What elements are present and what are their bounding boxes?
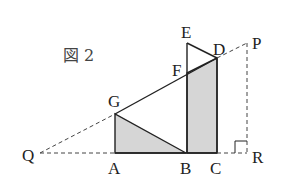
label-a: A (108, 159, 121, 178)
label-p: P (252, 34, 261, 53)
label-c: C (210, 159, 221, 178)
geometry-figure: 図 2 Q A B C R G F D E P (0, 0, 281, 186)
label-r: R (252, 148, 264, 167)
label-e: E (181, 23, 191, 42)
label-b: B (180, 159, 191, 178)
label-q: Q (22, 146, 34, 165)
dashed-qg (40, 114, 115, 153)
right-angle-mark (235, 141, 247, 153)
figure-title: 図 2 (63, 46, 94, 65)
label-f: F (172, 61, 181, 80)
label-g: G (108, 92, 120, 111)
label-d: D (213, 40, 225, 59)
triangle-gab (115, 114, 186, 153)
